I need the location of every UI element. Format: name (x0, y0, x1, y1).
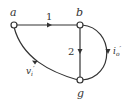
edge-label-1: 1 (46, 11, 52, 22)
node-g (77, 77, 83, 83)
node-label-a: a (10, 6, 17, 19)
node-label-g: g (77, 87, 84, 100)
arrow-icon (47, 23, 52, 28)
edge-label-2: 2 (68, 46, 74, 57)
edge-label-io: io′ (113, 45, 122, 57)
graph-diagram: a b g 1 2 io′ vi′ (0, 0, 130, 101)
node-label-b: b (76, 6, 83, 19)
arrow-icon (32, 61, 38, 65)
edge-io (82, 25, 107, 80)
arrow-icon (78, 49, 83, 54)
node-b (77, 22, 83, 28)
edge-label-vi: vi′ (26, 65, 35, 77)
node-a (11, 22, 17, 28)
